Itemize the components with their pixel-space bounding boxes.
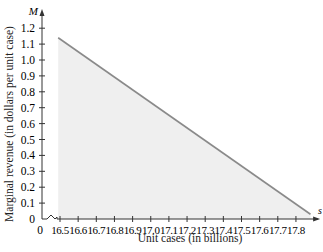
y-tick-label: 0.7 — [21, 102, 36, 114]
y-axis-ticks: 00.10.20.30.40.50.60.70.80.91.01.11.2 — [21, 22, 45, 225]
y-axis-variable: M — [28, 5, 39, 17]
y-tick-label: 0.5 — [21, 134, 36, 146]
y-axis-label: Marginal revenue (in dollars per unit ca… — [3, 19, 17, 229]
x-axis-label: Unit cases (in billions) — [60, 232, 320, 244]
y-axis-arrow-icon — [40, 9, 45, 16]
y-tick-label: 0.2 — [21, 181, 36, 193]
x-tick-label: 0 — [37, 224, 43, 236]
y-tick-label: 0.8 — [21, 86, 36, 98]
y-tick-label: 0.4 — [21, 149, 36, 161]
y-tick-label: 1.0 — [21, 54, 36, 66]
y-tick-label: 1.2 — [21, 22, 36, 34]
y-tick-label: 0.9 — [21, 70, 36, 82]
y-tick-label: 0 — [29, 213, 35, 225]
x-axis-variable: s — [318, 205, 322, 216]
x-axis-arrow-icon — [313, 217, 320, 222]
y-tick-label: 0.3 — [21, 165, 36, 177]
y-tick-label: 1.1 — [21, 38, 36, 50]
y-tick-label: 0.6 — [21, 118, 36, 130]
y-tick-label: 0.1 — [21, 197, 36, 209]
chart-canvas: Ms 00.10.20.30.40.50.60.70.80.91.01.11.2… — [0, 0, 323, 252]
